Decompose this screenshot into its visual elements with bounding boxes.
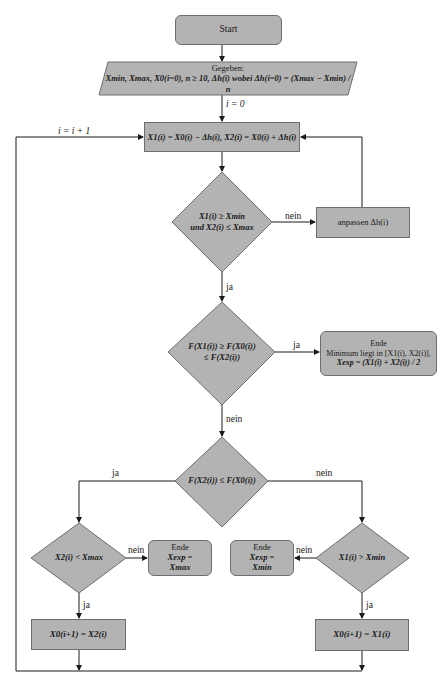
end-right-line2: Xmin [252,563,271,573]
decision-bounds-line1: X1(i) ≥ Xmin [199,211,245,222]
end-min-line1: Minimum liegt in [X1(i), X2(i)], [326,349,430,359]
given-title: Gegeben: [212,63,245,74]
edge-left-no: nein [128,545,144,555]
end-left-terminal: Ende Xexp = Xmax [148,540,212,576]
update-right-process: X0(i+1) = X1(i) [315,619,409,651]
given-line: Xmin, Xmax, X0(i=0), n ≥ 10, Δh(i) wobei… [104,73,352,94]
start-label: Start [220,24,238,36]
decision-compare-label: F(X2(i)) ≤ F(X0(i)) [188,475,255,486]
end-min-line2: Xexp = (X1(i) + X2(i)) / 2 [337,358,420,368]
end-minimum-terminal: Ende Minimum liegt in [X1(i), X2(i)], Xe… [320,331,437,376]
edge-compare-yes: ja [112,468,119,478]
update-left-process: X0(i+1) = X2(i) [31,619,126,650]
loop-label: i = i + 1 [58,126,90,136]
compute-label: X1(i) = X0(i) − Δh(i), X2(i) = X0(i) + Δ… [148,132,297,143]
edge-bounds-no: nein [285,211,301,221]
decision-left: X2(i) < Xmax [40,549,118,567]
edge-min-no: nein [226,414,242,424]
end-min-title: Ende [370,339,386,349]
edge-compare-no: nein [316,468,332,478]
compute-process: X1(i) = X0(i) − Δh(i), X2(i) = X0(i) + Δ… [144,122,300,152]
decision-bounds-line2: und X2(i) ≤ Xmax [190,222,253,233]
update-left-label: X0(i+1) = X2(i) [50,629,107,640]
edge-right-no: nein [296,545,312,555]
decision-left-label: X2(i) < Xmax [55,552,103,563]
init-label: i = 0 [226,99,245,109]
decision-right-label: X1(i) > Xmin [339,552,385,563]
decision-bounds: X1(i) ≥ Xmin und X2(i) ≤ Xmax [178,204,266,240]
adjust-process: anpassen Δh(i) [316,207,410,238]
end-right-terminal: Ende Xexp = Xmin [230,540,294,576]
start-terminal: Start [175,15,282,45]
edge-right-yes: ja [366,600,373,610]
decision-compare: F(X2(i)) ≤ F(X0(i)) [180,472,264,490]
edge-left-yes: ja [83,600,90,610]
edge-bounds-yes: ja [226,282,233,292]
edge-min-yes: ja [293,340,300,350]
given-input: Gegeben: Xmin, Xmax, X0(i=0), n ≥ 10, Δh… [104,62,352,95]
end-left-line2: Xmax [170,563,191,573]
decision-min-line1: F(X1(i)) ≥ F(X0(i)) [188,341,255,352]
adjust-label: anpassen Δh(i) [338,217,389,228]
decision-min: F(X1(i)) ≥ F(X0(i)) ≤ F(X2(i)) [178,334,266,370]
decision-min-line2: ≤ F(X2(i)) [204,352,240,363]
decision-right: X1(i) > Xmin [323,549,401,567]
update-right-label: X0(i+1) = X1(i) [333,629,390,640]
